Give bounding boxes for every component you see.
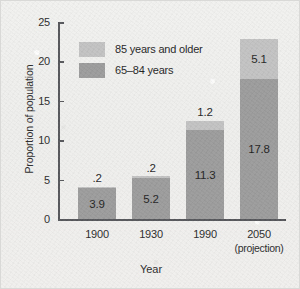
bar-segment-1900-65-84[interactable]: 3.9 — [78, 188, 116, 219]
bar-segment-2050-65-84[interactable]: 17.8 — [240, 79, 278, 219]
x-category-label-1990: 1990 — [174, 228, 236, 240]
x-category-label-1900: 1900 — [66, 228, 128, 240]
y-tick-label-0: 0 — [20, 213, 50, 225]
y-tick-0 — [58, 219, 64, 221]
x-category-label-1930: 1930 — [120, 228, 182, 240]
chart-legend: 85 years and older 65–84 years — [79, 41, 203, 83]
bar-segment-1930-85-plus[interactable] — [132, 176, 170, 178]
bar-value-2050-85-plus: 5.1 — [251, 53, 266, 65]
bar-value-1990-85-plus: 1.2 — [178, 106, 232, 118]
bar-segment-1930-65-84[interactable]: 5.2 — [132, 178, 170, 219]
x-category-label-2050: 2050 — [228, 228, 290, 240]
x-axis-title: Year — [1, 263, 300, 275]
legend-swatch-85-plus — [79, 42, 105, 57]
y-axis-title: Proportion of population — [23, 34, 35, 204]
legend-swatch-65-84 — [79, 63, 105, 78]
chart-figure: 25 20 15 10 5 0 Proportion of population… — [0, 0, 300, 289]
bar-value-1900-85-plus: .2 — [70, 172, 124, 184]
bar-value-1930-65-84: 5.2 — [143, 193, 158, 205]
bar-value-1900-65-84: 3.9 — [89, 198, 104, 210]
bar-value-1930-85-plus: .2 — [124, 162, 178, 174]
x-axis-line — [58, 219, 286, 221]
legend-label-85-plus: 85 years and older — [115, 43, 203, 55]
bar-segment-1900-85-plus[interactable] — [78, 187, 116, 189]
bar-segment-2050-85-plus[interactable]: 5.1 — [240, 39, 278, 79]
bar-value-1990-65-84: 11.3 — [195, 169, 216, 181]
legend-item-65-84[interactable]: 65–84 years — [79, 62, 203, 78]
bar-segment-1990-65-84[interactable]: 11.3 — [186, 130, 224, 219]
y-tick-label-25: 25 — [20, 16, 50, 28]
bar-segment-1990-85-plus[interactable] — [186, 121, 224, 131]
legend-item-85-plus[interactable]: 85 years and older — [79, 41, 203, 57]
legend-label-65-84: 65–84 years — [115, 64, 173, 76]
x-category-sublabel-2050: (projection) — [228, 242, 290, 254]
bar-value-2050-65-84: 17.8 — [248, 143, 270, 155]
